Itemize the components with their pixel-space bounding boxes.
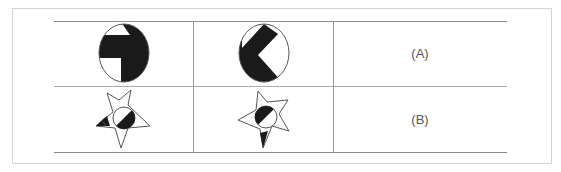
table-middle-rule bbox=[54, 86, 507, 87]
star-left-wedge-figure bbox=[94, 88, 154, 150]
circle-t-shape-figure bbox=[96, 22, 152, 84]
column-divider-2 bbox=[333, 21, 334, 152]
row-label-a: (A) bbox=[400, 46, 440, 61]
circle-k-shape-figure bbox=[234, 22, 294, 84]
star-bottom-wedge-figure bbox=[236, 88, 296, 150]
column-divider-1 bbox=[193, 21, 194, 152]
table-bottom-rule bbox=[54, 152, 507, 153]
row-label-b: (B) bbox=[400, 112, 440, 127]
